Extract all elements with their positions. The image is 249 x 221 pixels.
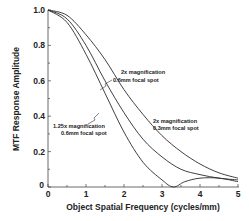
x-tick-label: 1 [84,189,89,199]
annotation-1.25x-0.6mm: 1.25x magnification 0.6mm focal spot [53,113,107,136]
annotation-line1: 2x magnification [121,69,166,75]
annotation-line2: 0.6mm focal spot [61,130,107,136]
x-axis-title: Object Spatial Frequency (cycles/mm) [66,202,220,212]
y-axis-title: MTF Response Amplitude [11,47,21,151]
annotation-2x-0.3mm: 2x magnification 0.3mm focal spot [153,118,199,131]
y-tick-label: 0.2 [33,147,45,157]
y-tick-label: 0.8 [33,40,45,50]
mtf-chart: 00.20.40.60.81.0 012345 Object Spatial F… [0,0,249,221]
y-tick-label: 0.4 [33,111,45,121]
curve-2x-0.6mm [48,10,238,180]
x-tick-label: 0 [46,189,51,199]
curve-1.25x-0.6mm [48,10,238,187]
y-tick-label: 0 [39,180,44,190]
x-tick-label: 3 [160,189,165,199]
annotation-line2: 0.3mm focal spot [153,125,199,131]
x-tick-label: 5 [236,189,241,199]
leader-arrow-icon [100,80,112,90]
y-tick-label: 0.6 [33,76,45,86]
annotation-line1: 2x magnification [153,118,198,124]
annotation-line2: 0.6mm focal spot [113,77,159,83]
annotation-line1: 1.25x magnification [53,123,105,129]
annotation-2x-0.6mm: 2x magnification 0.6mm focal spot [100,69,166,90]
x-ticks: 012345 [46,184,241,199]
x-tick-label: 4 [198,189,203,199]
x-tick-label: 2 [122,189,127,199]
y-tick-label: 1.0 [33,5,45,15]
curve-2x-0.3mm [48,10,238,178]
